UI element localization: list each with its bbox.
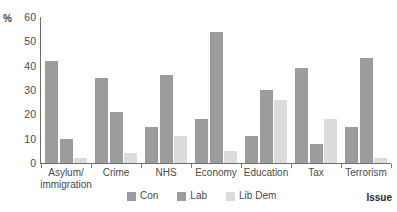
bar-con-2 bbox=[145, 127, 158, 164]
bar-lib-dem-4 bbox=[274, 100, 287, 163]
bar-lab-4 bbox=[260, 90, 273, 163]
legend-swatch-icon bbox=[127, 192, 136, 201]
y-tick-label-60: 60 bbox=[14, 12, 36, 22]
y-tick-label-0: 0 bbox=[14, 158, 36, 168]
category-label-line1: Terrorism bbox=[334, 167, 397, 179]
y-tick-label-10: 10 bbox=[14, 134, 36, 144]
bar-lab-1 bbox=[110, 112, 123, 163]
x-axis-line bbox=[40, 163, 391, 164]
bar-con-1 bbox=[95, 78, 108, 163]
bar-lib-dem-5 bbox=[324, 119, 337, 163]
bar-lab-0 bbox=[60, 139, 73, 163]
category-label-line2: immigration bbox=[34, 179, 98, 191]
bar-con-5 bbox=[295, 68, 308, 163]
bar-con-6 bbox=[345, 127, 358, 164]
legend-label: Con bbox=[140, 191, 158, 201]
bar-con-4 bbox=[245, 136, 258, 163]
y-tick-label-50: 50 bbox=[14, 36, 36, 46]
bar-con-0 bbox=[45, 61, 58, 163]
legend-swatch-icon bbox=[226, 192, 235, 201]
bar-lab-2 bbox=[160, 75, 173, 163]
legend-swatch-icon bbox=[177, 192, 186, 201]
y-axis-unit-label: % bbox=[3, 13, 12, 24]
chart-legend: ConLabLib Dem bbox=[127, 191, 288, 201]
y-tick-label-40: 40 bbox=[14, 61, 36, 71]
bar-lib-dem-3 bbox=[224, 151, 237, 163]
y-tick-label-30: 30 bbox=[14, 85, 36, 95]
bar-con-3 bbox=[195, 119, 208, 163]
legend-item-con[interactable]: Con bbox=[127, 191, 158, 201]
bar-chart: % 6050403020100 Asylum/immigrationCrimeN… bbox=[0, 0, 397, 212]
plot-area bbox=[41, 17, 391, 163]
bar-lib-dem-1 bbox=[124, 153, 137, 163]
category-label-6: Terrorism bbox=[334, 167, 397, 179]
legend-label: Lib Dem bbox=[239, 191, 276, 201]
x-axis-title: Issue bbox=[366, 192, 392, 203]
legend-item-lib-dem[interactable]: Lib Dem bbox=[226, 191, 276, 201]
bar-lib-dem-2 bbox=[174, 136, 187, 163]
bar-lab-3 bbox=[210, 32, 223, 163]
bar-lab-6 bbox=[360, 58, 373, 163]
y-tick-label-20: 20 bbox=[14, 109, 36, 119]
bar-lab-5 bbox=[310, 144, 323, 163]
legend-item-lab[interactable]: Lab bbox=[177, 191, 207, 201]
legend-label: Lab bbox=[190, 191, 207, 201]
